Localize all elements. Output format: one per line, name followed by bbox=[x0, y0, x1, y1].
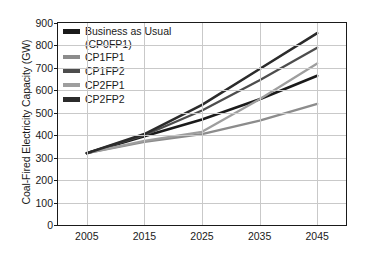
chart-legend: Business as Usual (CP0FP1)CP1FP1CP1FP2CP… bbox=[63, 25, 171, 107]
y-axis-label: Coal-Fired Electricity Capacity (GW) bbox=[20, 22, 32, 222]
y-axis-tick-mark bbox=[54, 135, 58, 136]
chart-container: Coal-Fired Electricity Capacity (GW) Bus… bbox=[0, 0, 381, 274]
x-axis-tick-label: 2025 bbox=[190, 230, 213, 242]
y-axis-tick-label: 200 bbox=[35, 174, 53, 186]
gridline-vertical bbox=[260, 23, 261, 225]
y-axis-tick-label: 600 bbox=[35, 84, 53, 96]
x-axis-tick-label: 2005 bbox=[75, 230, 98, 242]
y-axis-tick-label: 900 bbox=[35, 17, 53, 29]
legend-label: CP1FP2 bbox=[85, 65, 125, 78]
y-axis-tick-label: 300 bbox=[35, 152, 53, 164]
legend-item: CP2FP2 bbox=[63, 93, 171, 106]
gridline-vertical bbox=[317, 23, 318, 225]
y-axis-tick-mark bbox=[54, 68, 58, 69]
x-axis-tick-label: 2015 bbox=[133, 230, 156, 242]
gridline-vertical bbox=[202, 23, 203, 225]
legend-item: CP1FP1 bbox=[63, 51, 171, 64]
y-axis-tick-mark bbox=[54, 90, 58, 91]
y-axis-tick-mark bbox=[54, 203, 58, 204]
y-axis-tick-label: 700 bbox=[35, 62, 53, 74]
legend-swatch-icon bbox=[63, 55, 80, 59]
legend-swatch-icon bbox=[63, 69, 80, 73]
legend-label: CP1FP1 bbox=[85, 51, 125, 64]
y-axis-tick-mark bbox=[54, 158, 58, 159]
legend-swatch-icon bbox=[63, 29, 80, 34]
y-axis-tick-label: 0 bbox=[47, 219, 53, 231]
y-axis-tick-mark bbox=[54, 45, 58, 46]
y-axis-tick-mark bbox=[54, 113, 58, 114]
gridline-vertical bbox=[87, 23, 88, 225]
y-axis-tick-mark bbox=[54, 23, 58, 24]
legend-swatch-icon bbox=[63, 97, 80, 102]
legend-swatch-icon bbox=[63, 83, 80, 87]
y-axis-tick-mark bbox=[54, 225, 58, 226]
x-axis-tick-label: 2035 bbox=[248, 230, 271, 242]
legend-label: CP2FP2 bbox=[85, 93, 125, 106]
y-axis-tick-label: 800 bbox=[35, 39, 53, 51]
y-axis-tick-mark bbox=[54, 180, 58, 181]
y-axis-tick-label: 100 bbox=[35, 197, 53, 209]
gridline-vertical bbox=[144, 23, 145, 225]
y-axis-tick-label: 400 bbox=[35, 129, 53, 141]
y-axis-tick-label: 500 bbox=[35, 107, 53, 119]
plot-area: Business as Usual (CP0FP1)CP1FP1CP1FP2CP… bbox=[57, 22, 347, 226]
x-axis-tick-label: 2045 bbox=[306, 230, 329, 242]
